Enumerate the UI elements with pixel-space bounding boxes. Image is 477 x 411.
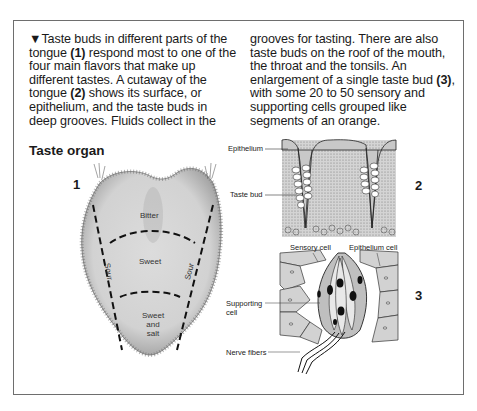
label-supporting-cell: Supporting cell	[226, 299, 262, 317]
label-epithelium-cell: Epithelium cell	[349, 243, 397, 252]
label-nerve-fibers: Nerve fibers	[226, 348, 266, 357]
label-sensory-cell: Sensory cell	[290, 243, 331, 252]
